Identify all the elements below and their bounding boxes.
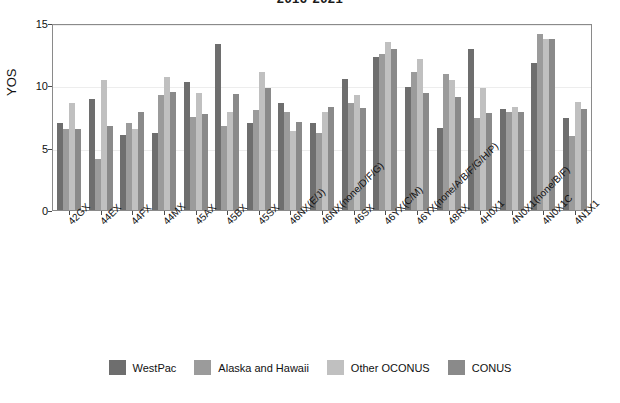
bar (328, 107, 334, 210)
bar (202, 114, 208, 210)
legend-label: Other OCONUS (351, 362, 430, 374)
bar-group (152, 25, 176, 210)
bar-group (278, 25, 302, 210)
bar-group (500, 25, 524, 210)
bar-group (373, 25, 397, 210)
bar-group (247, 25, 271, 210)
y-tick-mark (48, 211, 52, 212)
legend-item[interactable]: CONUS (448, 360, 512, 375)
bar-group (215, 25, 239, 210)
bar (391, 49, 397, 210)
y-tick-mark (48, 86, 52, 87)
chart-root: 2016-2021 YOS 051015 42GX44EX44FX44MX45A… (0, 0, 620, 403)
bar (75, 129, 81, 210)
y-tick-label: 15 (36, 18, 48, 30)
bar-group (120, 25, 144, 210)
bar (107, 126, 113, 210)
bar-group (310, 25, 334, 210)
bar (265, 88, 271, 210)
legend-swatch (194, 360, 211, 375)
y-tick-label: 10 (36, 80, 48, 92)
bar-groups (53, 25, 591, 210)
legend-swatch (448, 360, 465, 375)
legend-item[interactable]: WestPac (109, 360, 177, 375)
bar-group (468, 25, 492, 210)
legend-swatch (109, 360, 126, 375)
bar (170, 92, 176, 210)
y-axis-label: YOS (4, 69, 19, 96)
chart-legend: WestPacAlaska and HawaiiOther OCONUSCONU… (0, 360, 620, 375)
bar (296, 122, 302, 211)
legend-swatch (327, 360, 344, 375)
bar-group (57, 25, 81, 210)
chart-title-clip: 2016-2021 (0, 0, 620, 7)
bar-group (184, 25, 208, 210)
legend-label: CONUS (472, 362, 512, 374)
legend-label: WestPac (133, 362, 177, 374)
legend-item[interactable]: Alaska and Hawaii (194, 360, 309, 375)
bar-group (89, 25, 113, 210)
chart-title: 2016-2021 (0, 0, 620, 6)
y-tick-mark (48, 24, 52, 25)
plot-area (52, 24, 592, 211)
y-tick-mark (48, 149, 52, 150)
bar (233, 94, 239, 210)
legend-item[interactable]: Other OCONUS (327, 360, 430, 375)
bar (518, 112, 524, 210)
bar (360, 108, 366, 210)
bar-group (405, 25, 429, 210)
legend-label: Alaska and Hawaii (218, 362, 309, 374)
bar (581, 109, 587, 210)
bar (138, 112, 144, 210)
x-axis-labels: 42GX44EX44FX44MX45AX45BX45SX46NX(E/J)46N… (0, 215, 620, 355)
bar-group (563, 25, 587, 210)
